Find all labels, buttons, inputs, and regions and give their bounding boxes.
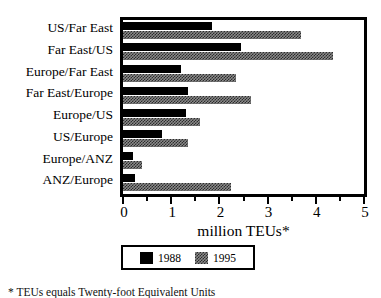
x-tick-major [267, 197, 269, 204]
bar-1995 [123, 31, 301, 39]
y-axis-label: ANZ/Europe [43, 169, 113, 191]
x-tick-minor [243, 197, 245, 201]
bar-1995 [123, 118, 200, 126]
chart-legend: 19881995 [121, 245, 255, 270]
bar-1988 [123, 130, 162, 138]
x-tick-major [218, 197, 220, 204]
bar-group [123, 172, 364, 194]
x-tick-minor [339, 197, 341, 201]
x-tick-minor [194, 197, 196, 201]
legend-swatch-1995 [195, 252, 208, 264]
bar-1988 [123, 22, 212, 30]
y-axis-label: US/Far East [47, 17, 113, 39]
bar-group [123, 107, 364, 129]
x-tick-major [315, 197, 317, 204]
plot-area [123, 20, 364, 194]
x-tick-label: 0 [112, 204, 136, 221]
x-tick-label: 5 [353, 204, 377, 221]
bar-1995 [123, 139, 188, 147]
legend-entry: 1995 [195, 252, 236, 264]
y-axis-category-labels: US/Far EastFar East/USEurope/Far EastFar… [0, 17, 117, 197]
x-tick-label: 3 [257, 204, 281, 221]
legend-swatch-1988 [140, 252, 153, 264]
x-tick-major [122, 197, 124, 204]
bar-1988 [123, 174, 135, 182]
x-tick-major [170, 197, 172, 204]
y-axis-label: Europe/ANZ [43, 148, 113, 170]
chart-footnote: * TEUs equals Twenty-foot Equivalent Uni… [8, 286, 215, 298]
chart-plot-frame [120, 17, 367, 197]
legend-label: 1988 [158, 252, 181, 264]
bar-1995 [123, 183, 231, 191]
x-tick-label: 1 [160, 204, 184, 221]
bar-group [123, 129, 364, 151]
bar-group [123, 20, 364, 42]
bar-1995 [123, 96, 251, 104]
x-tick-minor [146, 197, 148, 201]
y-axis-label: Europe/Far East [26, 61, 113, 83]
x-axis-title: million TEUs* [120, 222, 367, 240]
legend-entry: 1988 [140, 252, 181, 264]
bar-group [123, 85, 364, 107]
bar-1995 [123, 74, 236, 82]
bar-group [123, 151, 364, 173]
y-axis-label: US/Europe [53, 126, 113, 148]
bar-group [123, 64, 364, 86]
y-axis-label: Far East/US [47, 39, 113, 61]
bar-1988 [123, 65, 181, 73]
x-tick-major [363, 197, 365, 204]
bar-1995 [123, 52, 333, 60]
legend-label: 1995 [213, 252, 236, 264]
bar-1988 [123, 109, 186, 117]
y-axis-label: Europe/US [53, 104, 113, 126]
bar-group [123, 42, 364, 64]
x-tick-label: 2 [208, 204, 232, 221]
y-axis-label: Far East/Europe [26, 82, 113, 104]
x-tick-minor [291, 197, 293, 201]
x-tick-label: 4 [305, 204, 329, 221]
bar-1988 [123, 152, 133, 160]
bar-1995 [123, 161, 142, 169]
bar-1988 [123, 87, 188, 95]
bar-1988 [123, 43, 241, 51]
